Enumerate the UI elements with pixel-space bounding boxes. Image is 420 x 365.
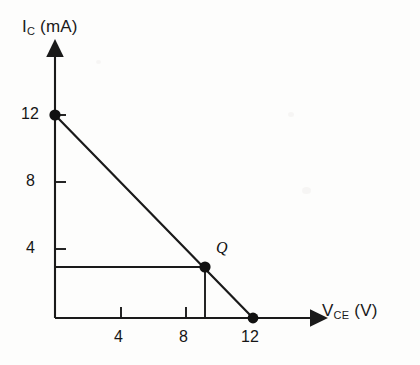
- x-axis-title-main: V: [322, 301, 334, 320]
- point-q: [199, 261, 210, 272]
- q-point-label: Q: [216, 240, 228, 256]
- x-tick-label-4: 4: [114, 329, 123, 345]
- y-axis-title-subscript: C: [27, 25, 35, 37]
- point-ic-saturation: [49, 109, 60, 120]
- dc-load-line-figure: IC (mA) VCE (V) 4 8 12 4 8 12 Q: [0, 0, 420, 365]
- y-axis-title-unit: (mA): [35, 17, 78, 36]
- y-tick-label-12: 12: [21, 106, 39, 122]
- x-axis-title: VCE (V): [322, 302, 378, 319]
- y-tick-label-4: 4: [26, 240, 35, 256]
- y-axis-title: IC (mA): [22, 18, 78, 35]
- x-tick-label-12: 12: [241, 329, 259, 345]
- dc-load-line: [55, 115, 253, 318]
- y-tick-label-8: 8: [26, 173, 35, 189]
- point-vce-cutoff: [248, 313, 259, 324]
- x-tick-label-8: 8: [179, 329, 188, 345]
- x-axis-title-subscript: CE: [334, 309, 350, 321]
- x-axis-title-unit: (V): [349, 301, 377, 320]
